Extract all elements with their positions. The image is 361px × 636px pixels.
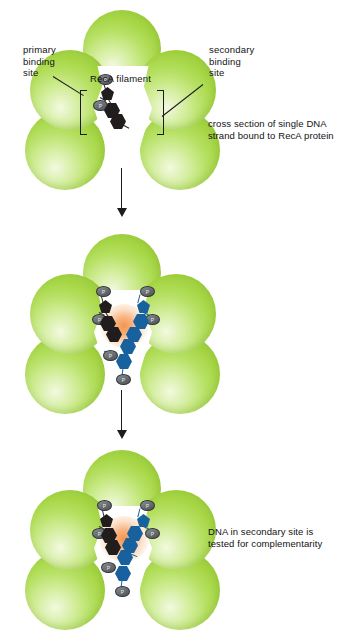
- label-primary-binding-site: primary binding site: [23, 44, 56, 79]
- phosphate-icon: [97, 500, 112, 511]
- panel-cross-section: primary binding site secondary binding s…: [0, 8, 361, 188]
- panel-caption: DNA in secondary site is tested for comp…: [208, 526, 322, 550]
- process-arrow-down: [115, 390, 129, 440]
- primary-binding-site-bracket: [80, 90, 87, 135]
- phosphate-icon: [96, 286, 111, 297]
- phosphate-icon: [140, 500, 155, 511]
- label-reca-filament: RecA filament: [90, 73, 151, 85]
- phosphate-icon: [116, 374, 131, 385]
- panel-caption: cross section of single DNA strand bound…: [208, 118, 334, 142]
- phosphate-icon: [101, 562, 116, 573]
- process-arrow-down: [115, 168, 129, 218]
- label-secondary-binding-site: secondary binding site: [209, 44, 255, 79]
- panel-complementarity-test: DNA in secondary site is tested for comp…: [0, 232, 361, 407]
- reca-strand-exchange-figure: primary binding site secondary binding s…: [0, 0, 361, 636]
- phosphate-icon: [140, 286, 155, 297]
- phosphate-icon: [115, 586, 130, 597]
- phosphate-icon: [145, 528, 160, 539]
- phosphate-icon: [103, 350, 118, 361]
- secondary-binding-site-bracket: [157, 90, 164, 135]
